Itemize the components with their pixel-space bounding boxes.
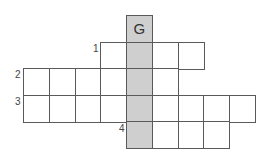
cell-r0-c4[interactable]: G (126, 15, 153, 43)
cell-r1-c4[interactable] (126, 42, 153, 70)
clue-number-1: 1 (93, 43, 99, 54)
cell-r2-c1[interactable] (49, 68, 76, 96)
cell-r3-c3[interactable] (100, 95, 127, 123)
given-letter: G (127, 20, 152, 37)
cell-r2-c4[interactable] (126, 68, 153, 96)
cell-r3-c5[interactable] (152, 95, 179, 123)
cell-r2-c5[interactable] (152, 68, 179, 96)
cell-r2-c0[interactable] (23, 68, 50, 96)
cell-r3-c8[interactable] (229, 95, 256, 123)
cell-r4-c6[interactable] (178, 121, 205, 149)
cell-r3-c2[interactable] (75, 95, 102, 123)
cell-r3-c7[interactable] (203, 95, 230, 123)
cell-r3-c1[interactable] (49, 95, 76, 123)
clue-number-3: 3 (15, 96, 21, 107)
cell-r1-c5[interactable] (152, 42, 179, 70)
cell-r2-c3[interactable] (100, 68, 127, 96)
cell-r3-c0[interactable] (23, 95, 50, 123)
cell-r4-c7[interactable] (203, 121, 230, 149)
cell-r1-c6[interactable] (178, 42, 205, 70)
clue-number-2: 2 (15, 69, 21, 80)
cell-r3-c4[interactable] (126, 95, 153, 123)
cell-r2-c2[interactable] (75, 68, 102, 96)
clue-number-4: 4 (119, 123, 125, 134)
cell-r4-c4[interactable] (126, 121, 153, 149)
cell-r4-c5[interactable] (152, 121, 179, 149)
cell-r1-c3[interactable] (100, 42, 127, 70)
cell-r3-c6[interactable] (178, 95, 205, 123)
crossword-grid: G 1 2 3 4 (0, 0, 270, 158)
